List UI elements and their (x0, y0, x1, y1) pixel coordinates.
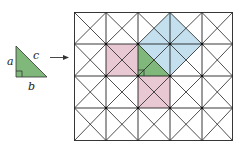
arrow-icon (50, 55, 69, 60)
label-c: c (33, 49, 39, 62)
label-a: a (7, 55, 14, 68)
label-b: b (28, 80, 35, 93)
pythagorean-tiling-diagram: a c b (0, 0, 244, 147)
reference-triangle: a c b (7, 46, 47, 93)
